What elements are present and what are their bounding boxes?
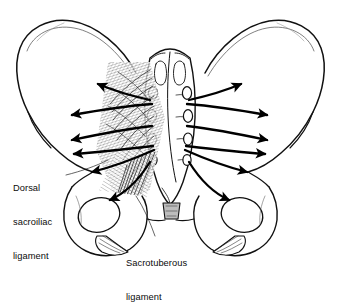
label-sacrotuberous-ligament: Sacrotuberous ligament xyxy=(126,236,187,306)
label-sacrotuberous-line1: Sacrotuberous xyxy=(126,258,187,269)
label-dorsal-sacroiliac-ligament: Dorsal sacroiliac ligament xyxy=(13,161,52,284)
label-dorsal-line1: Dorsal xyxy=(13,183,52,194)
label-dorsal-line3: ligament xyxy=(13,251,52,262)
right-lower-pelvis xyxy=(194,187,277,256)
label-sacrotuberous-line2: ligament xyxy=(126,292,187,303)
label-dorsal-line2: sacroiliac xyxy=(13,217,52,228)
